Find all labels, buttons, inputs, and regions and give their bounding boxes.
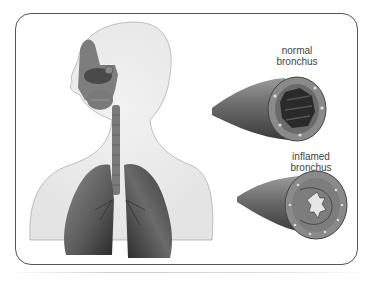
inflamed-bronchus [237,171,347,239]
inflamed-label-line2: bronchus [282,162,340,173]
anatomy-illustration [0,0,373,290]
inflamed-bronchus-label: inflamed bronchus [282,151,340,173]
normal-bronchus-label: normal bronchus [268,45,326,67]
inflamed-label-line1: inflamed [282,151,340,162]
human-figure [30,22,213,258]
normal-label-line2: bronchus [268,56,326,67]
normal-bronchus [212,77,326,141]
normal-label-line1: normal [268,45,326,56]
